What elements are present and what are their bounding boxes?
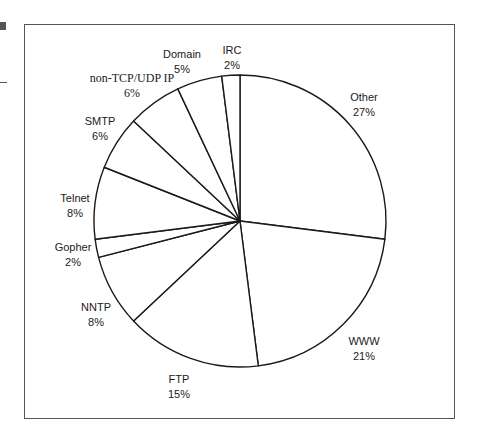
slice-label-name: WWW (348, 334, 379, 349)
slice-label-gopher: Gopher2% (55, 240, 92, 270)
slice-label-percent: 2% (55, 255, 92, 270)
slice-label-percent: 5% (163, 62, 201, 77)
slice-label-ftp: FTP15% (168, 372, 190, 402)
slice-label-name: Domain (163, 47, 201, 62)
slice-label-smtp: SMTP6% (85, 114, 116, 144)
slice-label-name: Telnet (60, 191, 89, 206)
slice-label-domain: Domain5% (163, 47, 201, 77)
slice-label-percent: 8% (60, 206, 89, 221)
slice-label-percent: 27% (350, 105, 378, 120)
slice-label-name: non-TCP/UDP IP (90, 71, 175, 86)
slice-label-nntp: NNTP8% (81, 300, 111, 330)
slice-label-name: FTP (168, 372, 190, 387)
slice-label-name: Gopher (55, 240, 92, 255)
slice-label-percent: 21% (348, 349, 379, 364)
slice-label-percent: 15% (168, 387, 190, 402)
slice-label-name: IRC (223, 43, 242, 58)
slice-label-percent: 2% (223, 58, 242, 73)
slice-label-percent: 6% (85, 129, 116, 144)
slice-label-telnet: Telnet8% (60, 191, 89, 221)
slice-label-percent: 6% (90, 86, 175, 101)
slice-label-name: Other (350, 90, 378, 105)
slice-label-other: Other27% (350, 90, 378, 120)
slice-label-name: NNTP (81, 300, 111, 315)
slice-label-irc: IRC2% (223, 43, 242, 73)
slice-label-non-tcp-udp-ip: non-TCP/UDP IP6% (90, 71, 175, 101)
slice-label-name: SMTP (85, 114, 116, 129)
slice-label-percent: 8% (81, 315, 111, 330)
slice-label-www: WWW21% (348, 334, 379, 364)
